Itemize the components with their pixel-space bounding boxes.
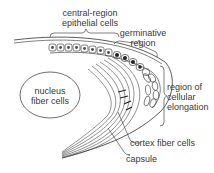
label-germinative-line2: region — [108, 38, 178, 48]
label-germinative-line1: germinative — [108, 28, 178, 38]
elongation-brace — [160, 66, 167, 126]
label-central-epithelial-line1: central-region — [50, 8, 130, 18]
label-central-epithelial: central-region epithelial cells — [50, 8, 130, 28]
label-nucleus-line2: fiber cells — [20, 96, 80, 106]
cortex-fibers — [62, 57, 140, 158]
label-nucleus-line1: nucleus — [20, 86, 80, 96]
label-elongation: region of cellular elongation — [167, 82, 209, 112]
label-central-epithelial-line2: epithelial cells — [50, 18, 130, 28]
elongating-cells — [142, 72, 159, 108]
label-capsule: capsule — [126, 154, 157, 164]
epithelial-cells — [49, 44, 112, 56]
label-elongation-line2: cellular — [167, 92, 209, 102]
label-germinative: germinative region — [108, 28, 178, 48]
label-cortex: cortex fiber cells — [130, 138, 195, 148]
label-nucleus: nucleus fiber cells — [20, 86, 80, 106]
label-elongation-line1: region of — [167, 82, 209, 92]
label-elongation-line3: elongation — [167, 102, 209, 112]
